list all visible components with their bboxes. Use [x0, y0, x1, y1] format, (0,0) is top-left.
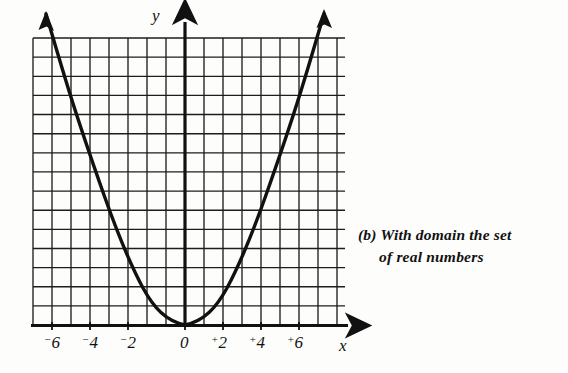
tick-value: 4: [256, 333, 265, 352]
x-tick-label-pos2: +2: [211, 333, 227, 353]
parabola-figure: [0, 0, 568, 373]
caption-line-1: With domain the set: [380, 226, 511, 243]
figure-background: [0, 0, 568, 373]
caption-line-2: of real numbers: [358, 246, 563, 268]
x-tick-label-neg4: −4: [82, 333, 98, 353]
caption-marker: (b): [358, 226, 377, 243]
x-tick-label-zero: 0: [180, 333, 189, 353]
x-tick-label-neg2: −2: [120, 333, 136, 353]
x-tick-label-pos6: +6: [287, 333, 303, 353]
tick-value: 2: [218, 333, 227, 352]
x-tick-label-pos4: +4: [249, 333, 265, 353]
x-tick-label-neg6: −6: [44, 333, 60, 353]
x-axis-label: x: [339, 336, 347, 356]
y-axis-label: y: [152, 6, 160, 26]
tick-value: 0: [180, 333, 189, 352]
tick-value: 6: [294, 333, 303, 352]
figure-caption: (b) With domain the set of real numbers: [358, 224, 563, 268]
tick-value: 6: [51, 333, 60, 352]
tick-value: 4: [89, 333, 98, 352]
tick-value: 2: [127, 333, 136, 352]
